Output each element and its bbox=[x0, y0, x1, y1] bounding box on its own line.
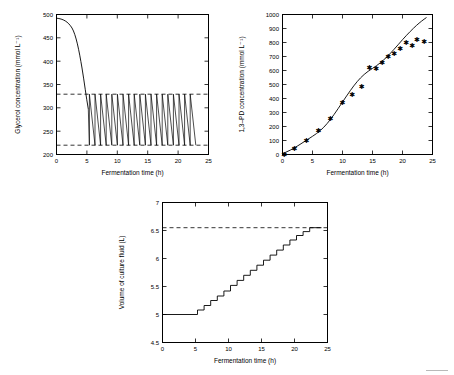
svg-text:800: 800 bbox=[269, 40, 280, 46]
svg-text:✱: ✱ bbox=[328, 115, 334, 123]
scan-artifact-mark bbox=[426, 370, 448, 371]
svg-text:20: 20 bbox=[291, 346, 298, 352]
svg-text:450: 450 bbox=[43, 35, 54, 41]
svg-text:6: 6 bbox=[156, 256, 160, 262]
svg-text:25: 25 bbox=[429, 158, 436, 164]
svg-text:5: 5 bbox=[311, 158, 315, 164]
glycerol-chart-svg: 200 250 300 350 400 450 500 0 5 10 bbox=[8, 6, 224, 182]
svg-text:600: 600 bbox=[269, 68, 280, 74]
x-tick-labels: 0 5 10 15 20 25 bbox=[161, 346, 332, 352]
y-tick-labels: 0 100 200 300 400 500 600 700 800 900 10… bbox=[266, 12, 280, 158]
svg-text:25: 25 bbox=[324, 346, 331, 352]
x-tick-labels: 0 5 10 15 20 25 bbox=[281, 158, 437, 164]
svg-text:4.5: 4.5 bbox=[151, 340, 160, 346]
svg-text:1000: 1000 bbox=[266, 12, 280, 18]
x-axis-title: Fermentation time (h) bbox=[214, 357, 276, 365]
svg-text:250: 250 bbox=[43, 129, 54, 135]
svg-text:✱: ✱ bbox=[340, 99, 346, 107]
y-axis-title: Volume of culture fluid (L) bbox=[118, 236, 126, 310]
svg-text:0: 0 bbox=[161, 346, 165, 352]
svg-text:500: 500 bbox=[269, 82, 280, 88]
svg-text:100: 100 bbox=[269, 138, 280, 144]
plot-frame bbox=[163, 203, 328, 343]
svg-text:5.5: 5.5 bbox=[151, 284, 160, 290]
svg-text:7: 7 bbox=[156, 200, 160, 206]
svg-text:10: 10 bbox=[339, 158, 346, 164]
svg-text:25: 25 bbox=[205, 158, 212, 164]
panel-13pd-concentration: 0 100 200 300 400 500 600 700 800 900 10… bbox=[232, 6, 450, 182]
x-axis-title: Fermentation time (h) bbox=[101, 169, 163, 177]
svg-text:✱: ✱ bbox=[292, 145, 298, 153]
svg-text:✱: ✱ bbox=[349, 91, 355, 99]
svg-text:20: 20 bbox=[175, 158, 182, 164]
x-axis-title: Fermentation time (h) bbox=[326, 169, 388, 177]
svg-text:200: 200 bbox=[43, 152, 54, 158]
panel-culture-fluid-volume: 4.5 5 5.5 6 6.5 7 0 5 10 15 20 bbox=[112, 194, 344, 370]
y-tick-labels: 200 250 300 350 400 450 500 bbox=[43, 12, 54, 158]
svg-text:5: 5 bbox=[85, 158, 89, 164]
svg-text:15: 15 bbox=[144, 158, 151, 164]
svg-text:0: 0 bbox=[281, 158, 285, 164]
svg-text:✱: ✱ bbox=[367, 64, 373, 72]
svg-text:5: 5 bbox=[194, 346, 198, 352]
svg-text:✱: ✱ bbox=[421, 38, 427, 46]
svg-text:15: 15 bbox=[369, 158, 376, 164]
svg-text:0: 0 bbox=[276, 152, 280, 158]
pd-chart-svg: 0 100 200 300 400 500 600 700 800 900 10… bbox=[232, 6, 450, 182]
x-tick-labels: 0 5 10 15 20 25 bbox=[55, 158, 213, 164]
panel-glycerol-concentration: 200 250 300 350 400 450 500 0 5 10 bbox=[8, 6, 224, 182]
svg-text:10: 10 bbox=[225, 346, 232, 352]
svg-text:✱: ✱ bbox=[304, 137, 310, 145]
y-axis-title: 1,3–PD concentration (mmol L⁻¹) bbox=[238, 36, 246, 132]
svg-text:300: 300 bbox=[269, 110, 280, 116]
svg-text:900: 900 bbox=[269, 26, 280, 32]
plot-frame bbox=[57, 15, 209, 155]
svg-text:5: 5 bbox=[156, 312, 160, 318]
volume-chart-svg: 4.5 5 5.5 6 6.5 7 0 5 10 15 20 bbox=[112, 194, 344, 370]
svg-text:✱: ✱ bbox=[359, 83, 365, 91]
svg-text:400: 400 bbox=[269, 96, 280, 102]
svg-text:✱: ✱ bbox=[281, 151, 287, 159]
plot-frame bbox=[283, 15, 433, 155]
svg-text:500: 500 bbox=[43, 12, 54, 18]
svg-text:300: 300 bbox=[43, 105, 54, 111]
svg-text:400: 400 bbox=[43, 59, 54, 65]
svg-text:700: 700 bbox=[269, 54, 280, 60]
y-axis-title: Glycerol concentration (mmol L⁻¹) bbox=[14, 35, 22, 133]
svg-text:✱: ✱ bbox=[316, 127, 322, 135]
svg-text:6.5: 6.5 bbox=[151, 228, 160, 234]
svg-text:0: 0 bbox=[55, 158, 59, 164]
svg-text:350: 350 bbox=[43, 82, 54, 88]
y-tick-labels: 4.5 5 5.5 6 6.5 7 bbox=[151, 200, 160, 346]
svg-text:✱: ✱ bbox=[414, 36, 420, 44]
svg-text:15: 15 bbox=[258, 346, 265, 352]
svg-text:20: 20 bbox=[399, 158, 406, 164]
svg-text:10: 10 bbox=[114, 158, 121, 164]
svg-text:200: 200 bbox=[269, 124, 280, 130]
